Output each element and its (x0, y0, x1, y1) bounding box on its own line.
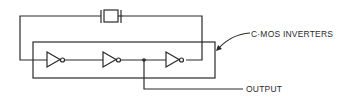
output-label: OUTPUT (246, 84, 282, 94)
crystal-icon (101, 10, 123, 23)
inverters-label: C·MOS INVERTERS (251, 29, 333, 39)
inverter-1-icon (47, 52, 65, 67)
inverter-2-icon (103, 52, 121, 67)
output-wire (144, 60, 243, 89)
inverter-3-icon (166, 52, 184, 67)
oscillator-circuit (0, 0, 344, 105)
callout-arrow-icon (216, 33, 250, 51)
